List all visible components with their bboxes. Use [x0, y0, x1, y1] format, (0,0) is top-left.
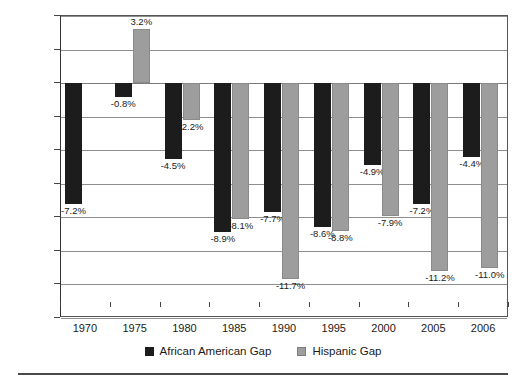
chart-figure: -7.2%-0.8%3.2%-4.5%-2.2%-8.9%-8.1%-7.7%-… [0, 0, 526, 384]
bar-african-american[interactable] [314, 83, 331, 227]
bar-african-american[interactable] [65, 83, 82, 204]
x-axis-tick-label: 2006 [453, 322, 513, 334]
bar-value-label: -7.2% [54, 205, 94, 216]
legend-swatch-icon [145, 347, 154, 356]
bar-hispanic[interactable] [481, 83, 498, 268]
bottom-divider [18, 373, 508, 375]
y-axis-tick-mark [54, 149, 60, 150]
legend-item-hispanic-gap[interactable]: Hispanic Gap [297, 345, 381, 357]
y-axis-tick-mark [54, 216, 60, 217]
x-axis-tick-mark [209, 302, 210, 307]
y-axis-tick-mark [54, 116, 60, 117]
bar-african-american[interactable] [264, 83, 281, 212]
legend-label: African American Gap [160, 345, 272, 357]
x-axis-tick-mark [309, 302, 310, 307]
bar-hispanic[interactable] [431, 83, 448, 271]
bar-value-label: -11.7% [271, 280, 311, 291]
x-axis-tick-mark [359, 302, 360, 307]
legend-item-african-american-gap[interactable]: African American Gap [145, 345, 272, 357]
bar-hispanic[interactable] [183, 83, 200, 120]
bar-group: -7.7%-11.7% [260, 16, 310, 316]
plot-area: -7.2%-0.8%3.2%-4.5%-2.2%-8.9%-8.1%-7.7%-… [60, 15, 508, 317]
bar-hispanic[interactable] [133, 29, 150, 83]
bar-african-american[interactable] [463, 83, 480, 157]
bar-value-label: -2.2% [171, 121, 211, 132]
x-axis-tick-mark [458, 302, 459, 307]
bar-african-american[interactable] [214, 83, 231, 232]
legend-swatch-icon [297, 347, 306, 356]
bar-african-american[interactable] [364, 83, 381, 165]
y-axis-tick-mark [54, 183, 60, 184]
bar-value-label: -4.5% [153, 160, 193, 171]
y-axis-tick-mark [54, 317, 60, 318]
x-axis-tick-mark [408, 302, 409, 307]
bar-hispanic[interactable] [282, 83, 299, 279]
bar-value-label: 3.2% [121, 16, 161, 27]
bar-group: -4.5%-2.2% [161, 16, 211, 316]
bar-hispanic[interactable] [382, 83, 399, 216]
x-axis-tick-mark [160, 302, 161, 307]
gridline [61, 318, 507, 319]
bar-value-label: -7.9% [370, 217, 410, 228]
bar-group: -4.9%-7.9% [360, 16, 410, 316]
bar-hispanic[interactable] [232, 83, 249, 219]
bar-value-label: -0.8% [103, 98, 143, 109]
y-axis-tick-mark [54, 15, 60, 16]
x-axis-tick-mark [259, 302, 260, 307]
bar-african-american[interactable] [413, 83, 430, 204]
y-axis-tick-mark [54, 49, 60, 50]
bar-group: -4.4%-11.0% [459, 16, 509, 316]
y-axis-tick-mark [54, 250, 60, 251]
bar-african-american[interactable] [115, 83, 132, 96]
y-axis-tick-mark [54, 283, 60, 284]
bar-series-container: -7.2%-0.8%3.2%-4.5%-2.2%-8.9%-8.1%-7.7%-… [61, 16, 507, 316]
legend-label: Hispanic Gap [312, 345, 381, 357]
chart-legend: African American Gap Hispanic Gap [0, 345, 526, 357]
x-axis-tick-mark [60, 302, 61, 307]
bar-group: -7.2% [61, 16, 111, 316]
x-axis-tick-mark [508, 302, 509, 307]
bar-hispanic[interactable] [332, 83, 349, 231]
bar-value-label: -11.2% [420, 272, 460, 283]
bar-value-label: -8.9% [203, 233, 243, 244]
bar-group: -8.9%-8.1% [210, 16, 260, 316]
x-axis-tick-mark [110, 302, 111, 307]
bar-value-label: -8.8% [320, 232, 360, 243]
y-axis-tick-mark [54, 82, 60, 83]
bar-value-label: -11.0% [470, 269, 510, 280]
